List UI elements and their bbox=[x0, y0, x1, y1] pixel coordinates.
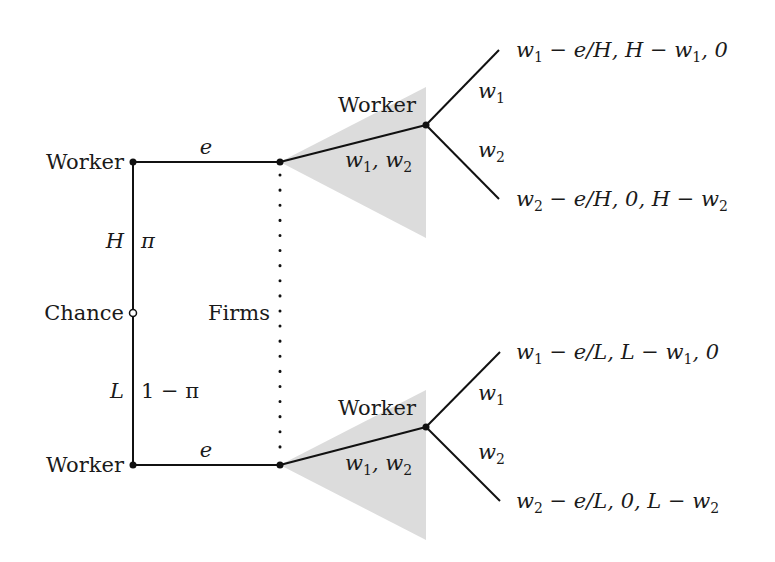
payoff-low-w1: w1 − e/L, L − w1, 0 bbox=[516, 340, 719, 367]
node-worker-high bbox=[130, 159, 137, 166]
label-worker-high: Worker bbox=[46, 150, 125, 174]
choice-edge-lower-w2 bbox=[426, 427, 500, 501]
label-firms: Firms bbox=[208, 301, 270, 325]
node-worker-choice-lower bbox=[423, 424, 430, 431]
label-worker-choice-upper: Worker bbox=[338, 93, 417, 117]
label-wage-offer-upper: w1, w2 bbox=[345, 148, 412, 175]
node-worker-choice-upper bbox=[423, 122, 430, 129]
label-prob-low: 1 − π bbox=[141, 379, 199, 403]
label-choice-lower-w1: w1 bbox=[478, 381, 505, 408]
choice-edge-upper-w2 bbox=[426, 125, 499, 199]
node-chance bbox=[130, 310, 137, 317]
label-type-low: L bbox=[109, 379, 124, 403]
game-tree-diagram: Worker Chance Worker Firms Worker Worker… bbox=[0, 0, 775, 562]
label-wage-offer-lower: w1, w2 bbox=[345, 451, 412, 478]
node-firm-upper bbox=[277, 159, 284, 166]
payoff-high-w1: w1 − e/H, H − w1, 0 bbox=[516, 38, 728, 65]
label-worker-choice-lower: Worker bbox=[338, 396, 417, 420]
label-effort-lower: e bbox=[200, 438, 212, 462]
node-worker-low bbox=[130, 462, 137, 469]
label-chance: Chance bbox=[44, 301, 124, 325]
label-choice-lower-w2: w2 bbox=[478, 440, 505, 467]
label-choice-upper-w1: w1 bbox=[478, 79, 505, 106]
payoff-high-w2: w2 − e/H, 0, H − w2 bbox=[516, 187, 728, 214]
label-worker-low: Worker bbox=[46, 453, 125, 477]
label-prob-high: π bbox=[140, 229, 156, 253]
payoff-low-w2: w2 − e/L, 0, L − w2 bbox=[516, 489, 719, 516]
label-type-high: H bbox=[105, 229, 125, 253]
node-firm-lower bbox=[277, 462, 284, 469]
label-effort-upper: e bbox=[200, 135, 212, 159]
label-choice-upper-w2: w2 bbox=[478, 138, 505, 165]
